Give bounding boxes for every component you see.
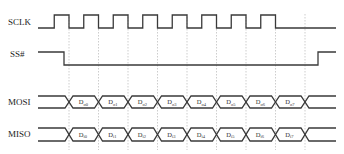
spi-timing-diagram: SCLK SS# MOSI MISO Do0Do1Do2Do3Do4Do5Do6… [0, 0, 344, 154]
sclk-waveform [38, 15, 336, 28]
sclk-label: SCLK [8, 17, 32, 27]
bit-label: Do5 [226, 98, 236, 107]
bit-label: Di2 [138, 131, 146, 140]
mosi-label: MOSI [8, 97, 31, 107]
ss-label: SS# [10, 49, 25, 59]
bit-label: Di3 [167, 131, 176, 140]
bit-label: Di7 [285, 131, 294, 140]
bit-label: Di6 [256, 131, 265, 140]
bit-label: Di4 [197, 131, 206, 140]
bit-label: Di0 [79, 131, 88, 140]
bit-label: Do7 [285, 98, 295, 107]
bit-label: Do3 [167, 98, 177, 107]
bit-label: Di5 [226, 131, 235, 140]
bit-label: Do2 [138, 98, 147, 107]
miso-bus: Di0Di1Di2Di3Di4Di5Di6Di7 [38, 128, 336, 141]
miso-label: MISO [8, 129, 31, 139]
bit-label: Di1 [108, 131, 116, 140]
bit-label: Do4 [197, 98, 207, 107]
bit-label: Do1 [108, 98, 117, 107]
mosi-bus: Do0Do1Do2Do3Do4Do5Do6Do7 [38, 96, 336, 108]
timing-guides [69, 14, 305, 150]
bit-label: Do0 [79, 98, 89, 107]
bit-label: Do6 [256, 98, 266, 107]
